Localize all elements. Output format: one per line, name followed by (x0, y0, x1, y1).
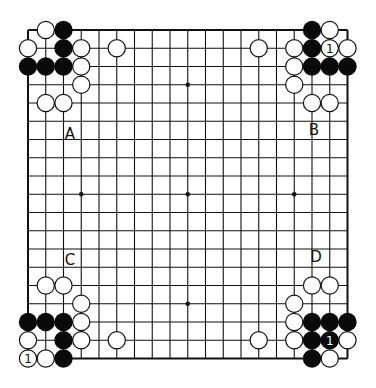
white-stone (321, 350, 338, 367)
star-point (185, 82, 190, 87)
star-point (292, 192, 297, 197)
white-stone (73, 76, 90, 93)
white-stone (286, 332, 303, 349)
black-stone (54, 21, 72, 39)
star-point (185, 192, 190, 197)
label-b: B (309, 123, 319, 138)
white-stone (73, 295, 90, 312)
white-stone (250, 40, 267, 57)
white-stone (37, 277, 54, 294)
black-stone (338, 313, 356, 331)
white-stone (55, 277, 72, 294)
white-stone (286, 76, 303, 93)
white-stone (321, 277, 338, 294)
black-stone (338, 57, 356, 75)
white-stone (19, 40, 36, 57)
black-stone (303, 349, 321, 367)
black-stone (54, 331, 72, 349)
black-stone (303, 313, 321, 331)
black-stone (303, 21, 321, 39)
white-stone (37, 350, 54, 367)
black-stone (54, 57, 72, 75)
white-stone (286, 40, 303, 57)
black-stone (54, 39, 72, 57)
black-stone (37, 57, 55, 75)
white-stone (73, 313, 90, 330)
move-number-marker: 1 (326, 334, 334, 348)
label-c: C (65, 253, 75, 268)
black-stone (303, 331, 321, 349)
white-stone (73, 40, 90, 57)
black-stone (54, 313, 72, 331)
white-stone (37, 94, 54, 111)
move-number-marker: 1 (326, 42, 334, 56)
black-stone (321, 313, 339, 331)
white-stone (108, 40, 125, 57)
black-stone (54, 349, 72, 367)
white-stone (108, 332, 125, 349)
white-stone (73, 58, 90, 75)
star-point (79, 192, 84, 197)
white-stone (55, 94, 72, 111)
white-stone (286, 313, 303, 330)
black-stone (19, 313, 37, 331)
white-stone (303, 94, 320, 111)
white-stone (286, 295, 303, 312)
label-a: A (65, 127, 75, 142)
black-stone (303, 57, 321, 75)
label-d: D (310, 250, 322, 265)
go-board: 111 (0, 0, 376, 388)
white-stone (73, 332, 90, 349)
star-point (185, 301, 190, 306)
black-stone (303, 39, 321, 57)
white-stone (37, 21, 54, 38)
white-stone (321, 94, 338, 111)
white-stone (286, 58, 303, 75)
black-stone (37, 313, 55, 331)
white-stone (339, 332, 356, 349)
white-stone (250, 332, 267, 349)
white-stone (19, 332, 36, 349)
white-stone (339, 40, 356, 57)
move-number-marker: 1 (24, 352, 32, 366)
black-stone (19, 57, 37, 75)
white-stone (321, 21, 338, 38)
white-stone (303, 277, 320, 294)
black-stone (321, 57, 339, 75)
